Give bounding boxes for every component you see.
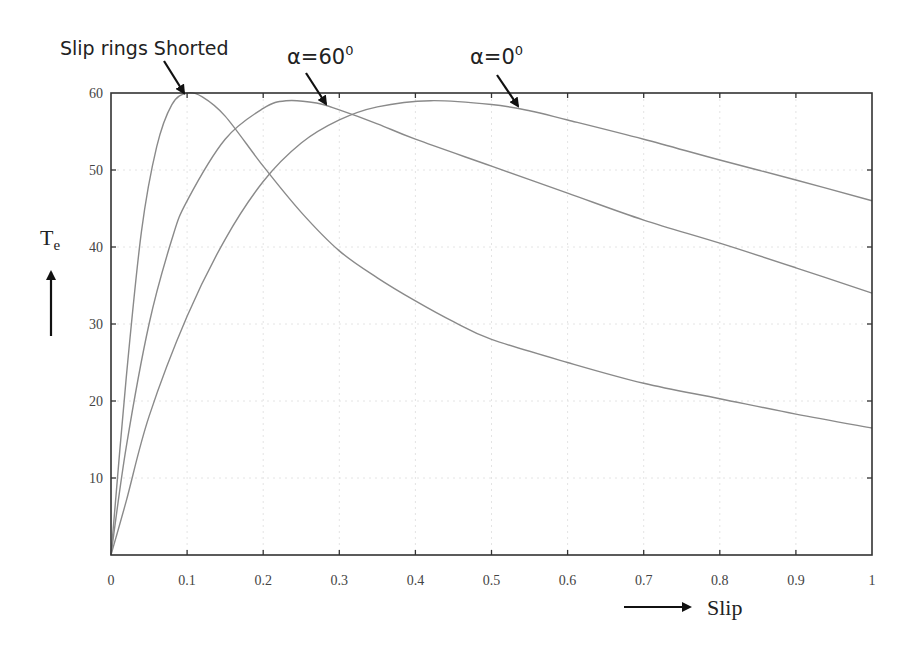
y-axis-title: Te	[40, 225, 60, 253]
x-tick-label: 0.3	[331, 573, 349, 588]
x-tick-label: 0.9	[787, 573, 805, 588]
x-tick-label: 0	[108, 573, 115, 588]
annotation-alpha-60: α=600	[287, 43, 353, 69]
y-tick-label: 20	[89, 394, 103, 409]
grid-lines	[111, 93, 872, 555]
torque-slip-chart: 00.10.20.30.40.50.60.70.80.91 1020304050…	[0, 0, 911, 651]
chart-canvas: 00.10.20.30.40.50.60.70.80.91 1020304050…	[0, 0, 911, 651]
x-tick-label: 0.4	[407, 573, 425, 588]
x-tick-label: 0.2	[254, 573, 272, 588]
annotation-alpha-0: α=00	[470, 43, 523, 69]
x-axis-title: Slip	[707, 595, 742, 620]
y-tick-label: 30	[89, 317, 103, 332]
y-tick-label: 50	[89, 163, 103, 178]
annotation-arrow-alpha0-icon	[497, 75, 518, 106]
x-axis-tick-labels: 00.10.20.30.40.50.60.70.80.91	[108, 573, 876, 588]
y-tick-label: 60	[89, 86, 103, 101]
x-tick-label: 0.7	[635, 573, 653, 588]
annotation-arrow-shorted-icon	[164, 61, 184, 93]
x-tick-label: 0.6	[559, 573, 577, 588]
y-tick-label: 40	[89, 240, 103, 255]
x-tick-label: 0.5	[483, 573, 501, 588]
y-axis-tick-labels: 102030405060	[89, 86, 103, 486]
y-tick-label: 10	[89, 471, 103, 486]
x-tick-label: 0.1	[178, 573, 196, 588]
x-tick-label: 1	[869, 573, 876, 588]
annotation-slip-rings-shorted: Slip rings Shorted	[60, 37, 229, 59]
annotation-arrow-alpha60-icon	[306, 73, 326, 104]
x-tick-label: 0.8	[711, 573, 729, 588]
